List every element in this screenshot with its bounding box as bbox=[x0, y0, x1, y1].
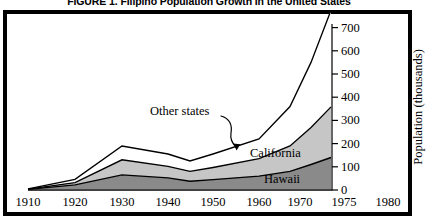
label-california: California bbox=[250, 146, 301, 161]
y-tick-500: 500 bbox=[341, 67, 360, 82]
y-tick-100: 100 bbox=[341, 159, 360, 174]
y-tick-600: 600 bbox=[341, 43, 360, 58]
x-tick-1940: 1940 bbox=[156, 195, 181, 210]
x-tick-1930: 1930 bbox=[110, 195, 135, 210]
x-tick-1980: 1980 bbox=[376, 195, 401, 210]
x-tick-1950: 1950 bbox=[201, 195, 226, 210]
y-axis-title: Population (thousands) bbox=[412, 49, 427, 165]
other-states-arrow bbox=[221, 116, 236, 147]
y-axis-ticks bbox=[332, 28, 338, 190]
x-tick-1920: 1920 bbox=[63, 195, 88, 210]
y-tick-300: 300 bbox=[341, 113, 360, 128]
x-tick-1960: 1960 bbox=[247, 195, 272, 210]
y-tick-400: 400 bbox=[341, 90, 360, 105]
x-tick-1970: 1970 bbox=[288, 195, 313, 210]
label-other-states: Other states bbox=[150, 104, 209, 119]
label-hawaii: Hawaii bbox=[264, 172, 300, 187]
x-tick-1910: 1910 bbox=[16, 195, 41, 210]
y-tick-200: 200 bbox=[341, 136, 360, 151]
y-tick-0: 0 bbox=[341, 183, 347, 198]
y-tick-700: 700 bbox=[341, 20, 360, 35]
